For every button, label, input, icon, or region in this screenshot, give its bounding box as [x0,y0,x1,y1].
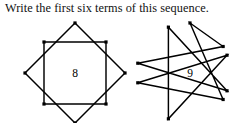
star-8-drawing: 8 [20,18,130,123]
star-9-polygon-path [138,23,227,119]
star-9-drawing: 9 [135,18,245,123]
figure-star-9: 9 [135,18,245,123]
figure-star-8: 8 [20,18,130,123]
page-canvas: Write the first six terms of this sequen… [0,0,251,123]
figures-row: 8 9 [0,18,251,123]
star-9-vertex-dots [136,21,228,120]
prompt-text: Write the first six terms of this sequen… [5,1,248,16]
star-9-center-label: 9 [187,67,193,79]
star-8-center-label: 8 [72,67,78,79]
